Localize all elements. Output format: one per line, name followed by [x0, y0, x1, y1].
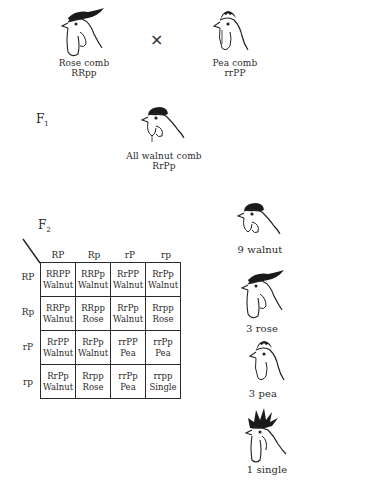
grid-cell: RRPpWalnut — [41, 297, 76, 331]
row-header: Rp — [18, 307, 38, 317]
f1-label: F1 — [36, 112, 49, 128]
parent-left-name: Rose comb — [48, 58, 120, 68]
grid-cell: RrPpWalnut — [76, 331, 111, 365]
grid-cell: RrppRose — [76, 365, 111, 399]
rose-comb-rooster-icon — [238, 268, 288, 320]
col-header: Rp — [76, 250, 112, 260]
grid-cell: RrPpWalnut — [41, 365, 76, 399]
punnett-square: RRPPWalnut RRPpWalnut RrPPWalnut RrPpWal… — [40, 262, 181, 399]
table-row: RrPPWalnut RrPpWalnut rrPPPea rrPpPea — [41, 331, 181, 365]
parent-left-genotype: RRpp — [48, 68, 120, 78]
col-header: rP — [112, 250, 148, 260]
ratio-label: 9 walnut — [232, 245, 288, 255]
table-row: RRPpWalnut RRppRose RrPpWalnut RrppRose — [41, 297, 181, 331]
table-row: RrPpWalnut RrppRose rrPpPea rrppSingle — [41, 365, 181, 399]
grid-cell: RrPPWalnut — [41, 331, 76, 365]
grid-cell: RrppRose — [146, 297, 181, 331]
col-header: RP — [40, 250, 76, 260]
table-row: RRPPWalnut RRPpWalnut RrPPWalnut RrPpWal… — [41, 263, 181, 297]
walnut-comb-rooster-icon — [138, 104, 188, 144]
row-header: RP — [18, 272, 38, 282]
walnut-comb-rooster-icon — [234, 200, 284, 240]
cross-symbol: × — [150, 30, 163, 49]
grid-cell: rrPPPea — [111, 331, 146, 365]
pea-comb-rooster-icon — [208, 8, 250, 54]
grid-cell: rrPpPea — [146, 331, 181, 365]
ratio-label: 1 single — [240, 465, 294, 475]
pea-comb-rooster-icon — [244, 338, 286, 384]
grid-cell: RrPPWalnut — [111, 263, 146, 297]
grid-cell: rrPpPea — [111, 365, 146, 399]
f1-genotype: RrPp — [124, 161, 204, 171]
grid-cell: rrppSingle — [146, 365, 181, 399]
ratio-label: 3 rose — [236, 324, 288, 334]
row-header: rp — [18, 377, 38, 387]
parent-right-genotype: rrPP — [200, 68, 270, 78]
rose-comb-rooster-icon — [58, 6, 108, 58]
f2-label: F2 — [38, 218, 51, 234]
f1-name: All walnut comb — [124, 151, 204, 161]
grid-cell: RRppRose — [76, 297, 111, 331]
row-header: rP — [18, 342, 38, 352]
grid-cell: RrPpWalnut — [146, 263, 181, 297]
grid-cell: RrPpWalnut — [111, 297, 146, 331]
grid-cell: RRPPWalnut — [41, 263, 76, 297]
parent-right-name: Pea comb — [200, 58, 270, 68]
ratio-label: 3 pea — [238, 389, 288, 399]
col-header: rp — [148, 250, 184, 260]
single-comb-rooster-icon — [242, 406, 292, 466]
grid-cell: RRPpWalnut — [76, 263, 111, 297]
